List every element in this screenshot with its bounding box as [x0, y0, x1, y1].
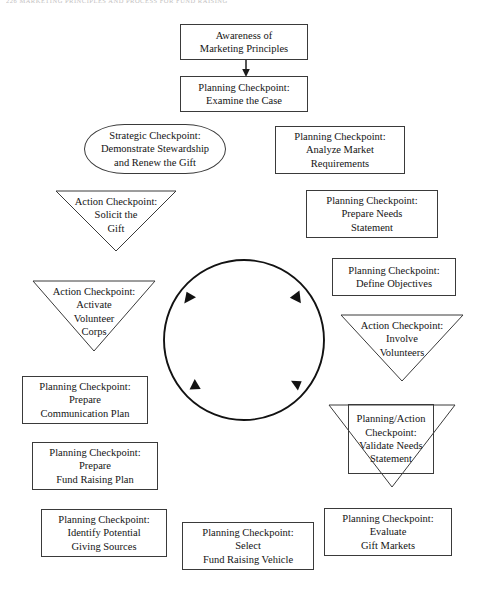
node-label: Planning Checkpoint: Identify Potential … — [55, 513, 152, 553]
node-label: Action Checkpoint: Activate Volunteer Co… — [50, 285, 139, 339]
node-label: Action Checkpoint: Involve Volunteers — [358, 319, 447, 359]
node-label: Action Checkpoint: Solicit the Gift — [72, 195, 161, 235]
node-label: Strategic Checkpoint: Demonstrate Stewar… — [98, 129, 212, 169]
node-activate-volunteer-corps[interactable]: Action Checkpoint: Activate Volunteer Co… — [32, 280, 156, 352]
node-demonstrate-stewardship[interactable]: Strategic Checkpoint: Demonstrate Stewar… — [84, 124, 226, 174]
cycle-circle — [158, 252, 330, 428]
node-label: Planning Checkpoint: Define Objectives — [345, 264, 442, 291]
node-identify-potential-giving-sources[interactable]: Planning Checkpoint: Identify Potential … — [41, 509, 167, 557]
node-label: Planning Checkpoint: Examine the Case — [195, 81, 292, 108]
diagram-page: 226 MARKETING PRINCIPLES AND PROCESS FOR… — [0, 0, 487, 599]
node-label: Planning Checkpoint: Select Fund Raising… — [199, 526, 296, 566]
node-define-objectives[interactable]: Planning Checkpoint: Define Objectives — [332, 258, 456, 296]
node-label: Planning Checkpoint: Prepare Fund Raisin… — [46, 446, 143, 486]
node-label: Planning Checkpoint: Evaluate Gift Marke… — [339, 512, 436, 552]
node-examine-case[interactable]: Planning Checkpoint: Examine the Case — [180, 76, 308, 112]
node-prepare-fund-raising-plan[interactable]: Planning Checkpoint: Prepare Fund Raisin… — [32, 442, 158, 490]
node-involve-volunteers[interactable]: Action Checkpoint: Involve Volunteers — [340, 314, 464, 382]
node-label: Planning Checkpoint: Prepare Communicati… — [36, 380, 133, 420]
node-prepare-needs-statement[interactable]: Planning Checkpoint: Prepare Needs State… — [306, 190, 438, 238]
node-label: Planning Checkpoint: Prepare Needs State… — [323, 194, 420, 234]
node-evaluate-gift-markets[interactable]: Planning Checkpoint: Evaluate Gift Marke… — [324, 508, 452, 556]
connector-awareness-to-examine — [240, 58, 252, 78]
node-label: Awareness of Marketing Principles — [197, 29, 291, 56]
node-label: Planning Checkpoint: Analyze Market Requ… — [291, 130, 388, 170]
node-solicit-gift[interactable]: Action Checkpoint: Solicit the Gift — [55, 190, 177, 252]
node-analyze-market[interactable]: Planning Checkpoint: Analyze Market Requ… — [275, 126, 405, 174]
node-validate-needs-statement[interactable]: Planning/Action Checkpoint: Validate Nee… — [348, 404, 434, 474]
running-head: 226 MARKETING PRINCIPLES AND PROCESS FOR… — [6, 0, 306, 4]
node-select-fund-raising-vehicle[interactable]: Planning Checkpoint: Select Fund Raising… — [182, 522, 314, 570]
node-label: Planning/Action Checkpoint: Validate Nee… — [354, 412, 429, 466]
node-prepare-communication-plan[interactable]: Planning Checkpoint: Prepare Communicati… — [22, 376, 148, 424]
node-awareness[interactable]: Awareness of Marketing Principles — [180, 24, 308, 60]
